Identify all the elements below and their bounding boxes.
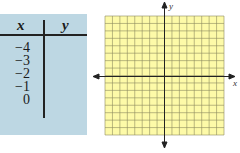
x-axis-label: x	[232, 78, 237, 88]
y-axis-label: y	[168, 1, 173, 11]
y-axis-up-arrow-icon	[162, 2, 167, 8]
x-axis-left-arrow-icon	[93, 74, 99, 79]
coordinate-grid: y x	[0, 0, 240, 153]
y-axis-down-arrow-icon	[162, 142, 167, 148]
